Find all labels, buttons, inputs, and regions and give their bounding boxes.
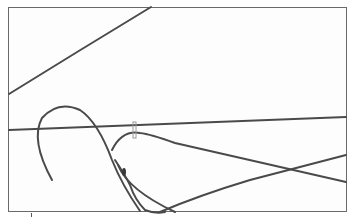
- hanger-hook-left: [38, 106, 140, 211]
- corner-mark: [31, 213, 32, 217]
- wire-diagonal-top: [9, 7, 151, 94]
- hanger-shoulder-right: [112, 133, 346, 182]
- hanger-illustration: [0, 0, 354, 221]
- hanger-neck: [115, 160, 165, 213]
- wire-lower-diagonal: [160, 155, 346, 212]
- wire-horizontal-bar: [9, 117, 346, 130]
- twist-knot: [122, 168, 126, 176]
